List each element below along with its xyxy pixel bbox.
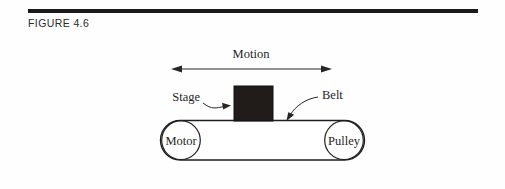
- figure-page: FIGURE 4.6 Motion Motor Pulley Stage Bel…: [0, 0, 505, 189]
- arrowhead-left-icon: [171, 66, 182, 73]
- stage-leader-line: [203, 103, 231, 110]
- stage-block: [234, 86, 273, 121]
- belt-drive-stage-diagram: Motion Motor Pulley Stage Belt: [0, 0, 505, 189]
- stage-label: Stage: [172, 90, 200, 104]
- motion-double-arrow: [171, 66, 332, 73]
- arrowhead-right-icon: [321, 66, 332, 73]
- belt-label: Belt: [322, 88, 343, 102]
- motion-label: Motion: [233, 47, 271, 61]
- pulley-label: Pulley: [328, 134, 361, 148]
- motor-label: Motor: [165, 134, 197, 148]
- stage-leader-arrowhead-icon: [222, 103, 231, 110]
- belt-leader-line: [287, 97, 319, 121]
- belt-leader-arrowhead-icon: [287, 112, 295, 121]
